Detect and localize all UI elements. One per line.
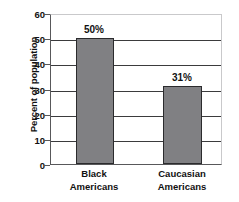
y-tick-label-30: 30	[19, 84, 45, 95]
y-tick-label-10: 10	[19, 134, 45, 145]
x-category-line-2: Americans	[158, 181, 207, 194]
y-tick-label-40: 40	[19, 59, 45, 70]
bar-value-black-americans: 50%	[84, 24, 104, 35]
bar-chart: Percent of population 60 50 40 30 20 10 …	[0, 0, 239, 202]
x-category-line-2: Americans	[70, 181, 119, 194]
y-tick-mark-0	[44, 165, 50, 166]
x-category-label-black-americans: Black Americans	[70, 168, 119, 193]
y-tick-label-0: 0	[19, 160, 45, 171]
bar-value-caucasian-americans: 31%	[172, 72, 192, 83]
y-tick-label-60: 60	[19, 9, 45, 20]
y-tick-label-20: 20	[19, 109, 45, 120]
y-tick-label-50: 50	[19, 34, 45, 45]
x-category-label-caucasian-americans: Caucasian Americans	[158, 168, 207, 193]
plot-area	[50, 14, 222, 165]
bar-black-americans[interactable]	[76, 38, 114, 164]
x-category-line-1: Caucasian	[158, 168, 207, 181]
x-category-line-1: Black	[70, 168, 119, 181]
bar-caucasian-americans[interactable]	[163, 86, 202, 164]
